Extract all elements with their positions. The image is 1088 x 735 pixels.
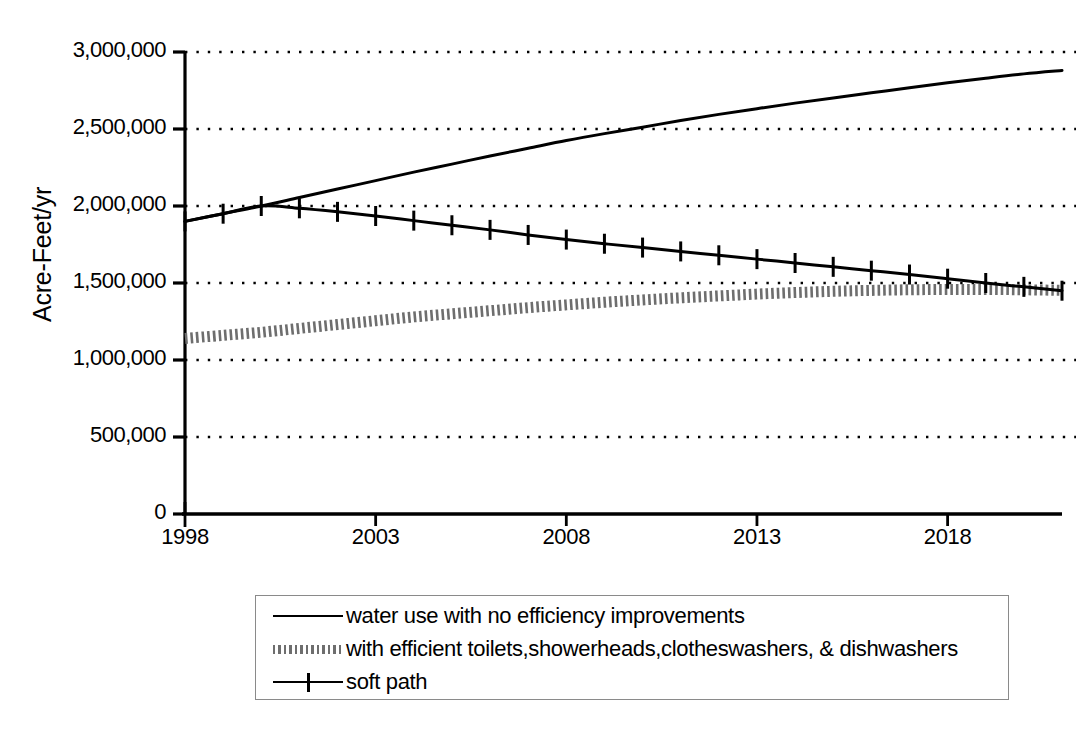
- series-1: [185, 289, 1062, 338]
- dotted-line-key-icon: [270, 636, 346, 662]
- series-0: [185, 70, 1062, 221]
- legend-item-water-use-no-efficiency: water use with no efficiency improvement…: [256, 599, 1008, 632]
- legend-label-1: with efficient toilets,showerheads,cloth…: [346, 636, 958, 662]
- legend: water use with no efficiency improvement…: [255, 595, 1009, 700]
- solid-line-key-icon: [270, 603, 346, 629]
- data-series-layer: [185, 70, 1062, 338]
- legend-label-2: soft path: [346, 669, 427, 695]
- plus-line-key-icon: [270, 669, 346, 695]
- legend-item-soft-path: soft path: [256, 665, 1008, 698]
- chart-root: Acre-Feet/yr 0500,0001,000,0001,500,0002…: [0, 0, 1088, 735]
- gridlines: [185, 52, 1076, 437]
- legend-item-efficient-fixtures: with efficient toilets,showerheads,cloth…: [256, 632, 1008, 665]
- legend-label-0: water use with no efficiency improvement…: [346, 603, 745, 629]
